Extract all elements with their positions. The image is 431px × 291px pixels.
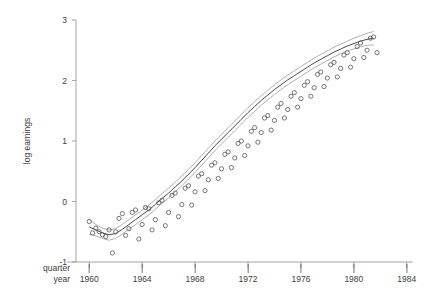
data-point-marker	[296, 105, 300, 109]
x-tick-label: 1972	[239, 274, 258, 284]
data-point-marker	[352, 57, 356, 61]
data-point-marker	[309, 94, 313, 98]
data-point-marker	[246, 144, 250, 148]
data-point-marker	[137, 237, 141, 241]
x-tick-label: 1976	[291, 274, 310, 284]
data-point-marker	[110, 251, 114, 255]
data-point-marker	[216, 176, 220, 180]
data-point-marker	[299, 97, 303, 101]
data-point-marker	[206, 178, 210, 182]
data-point-marker	[305, 80, 309, 84]
data-point-marker	[348, 65, 352, 69]
x-axis-row-label-year: year	[53, 274, 70, 284]
data-point-marker	[302, 83, 306, 87]
data-point-marker	[266, 113, 270, 117]
data-point-marker	[104, 234, 108, 238]
data-point-marker	[180, 202, 184, 206]
data-point-marker	[259, 130, 263, 134]
confidence-band-line	[89, 32, 373, 230]
data-point-marker	[312, 86, 316, 90]
data-point-marker	[176, 215, 180, 219]
data-point-marker	[150, 228, 154, 232]
data-point-marker	[239, 139, 243, 143]
data-point-marker	[256, 140, 260, 144]
data-point-marker	[124, 233, 128, 237]
y-tick-label: 3	[62, 15, 67, 25]
x-axis-tick-mark: |	[353, 263, 355, 273]
data-point-marker	[219, 167, 223, 171]
data-point-marker	[120, 212, 124, 216]
data-point-marker	[229, 166, 233, 170]
data-point-marker	[282, 116, 286, 120]
data-point-marker	[339, 66, 343, 70]
data-point-marker	[233, 156, 237, 160]
data-point-marker	[90, 231, 94, 235]
data-point-marker	[226, 150, 230, 154]
data-point-marker	[117, 216, 121, 220]
data-point-marker	[292, 91, 296, 95]
x-axis-row-label-quarter: quarter	[43, 263, 70, 273]
data-point-marker	[253, 126, 257, 130]
data-point-marker	[269, 128, 273, 132]
x-axis-tick-mark: |	[141, 263, 143, 273]
data-point-marker	[190, 203, 194, 207]
x-tick-label: 1960	[80, 274, 99, 284]
y-tick-label: 1	[62, 136, 67, 146]
x-axis-tick-mark: |	[88, 263, 90, 273]
chart-container: -10123log earnings|1960|1964|1968|1972|1…	[0, 0, 431, 291]
data-point-marker	[186, 184, 190, 188]
data-point-marker	[213, 161, 217, 165]
data-point-marker	[200, 172, 204, 176]
data-point-marker	[249, 129, 253, 133]
scatter-plot: -10123log earnings|1960|1964|1968|1972|1…	[0, 0, 431, 291]
data-point-marker	[276, 105, 280, 109]
data-point-marker	[272, 118, 276, 122]
data-point-marker	[365, 48, 369, 52]
data-point-marker	[140, 222, 144, 226]
x-axis-tick-mark: |	[406, 263, 408, 273]
y-tick-label: 0	[62, 197, 67, 207]
x-tick-label: 1980	[344, 274, 363, 284]
data-point-marker	[279, 101, 283, 105]
data-point-marker	[163, 224, 167, 228]
data-point-marker	[319, 70, 323, 74]
data-point-marker	[243, 153, 247, 157]
y-axis-title: log earnings	[22, 118, 32, 164]
x-axis-tick-mark: |	[247, 263, 249, 273]
confidence-band-line	[89, 45, 373, 240]
data-point-marker	[375, 51, 379, 55]
data-point-marker	[322, 84, 326, 88]
data-point-marker	[325, 76, 329, 80]
x-tick-label: 1984	[397, 274, 416, 284]
x-tick-label: 1964	[133, 274, 152, 284]
data-point-marker	[127, 227, 131, 231]
data-point-marker	[203, 189, 207, 193]
data-point-marker	[193, 190, 197, 194]
data-point-marker	[362, 55, 366, 59]
y-tick-label: 2	[62, 76, 67, 86]
data-point-marker	[289, 94, 293, 98]
data-point-marker	[133, 208, 137, 212]
x-tick-label: 1968	[186, 274, 205, 284]
data-point-marker	[286, 107, 290, 111]
data-point-marker	[335, 75, 339, 79]
data-point-marker	[332, 60, 336, 64]
x-axis-tick-mark: |	[300, 263, 302, 273]
data-point-marker	[167, 210, 171, 214]
fitted-curve-line	[89, 38, 373, 235]
data-point-marker	[153, 218, 157, 222]
x-axis-tick-mark: |	[194, 263, 196, 273]
